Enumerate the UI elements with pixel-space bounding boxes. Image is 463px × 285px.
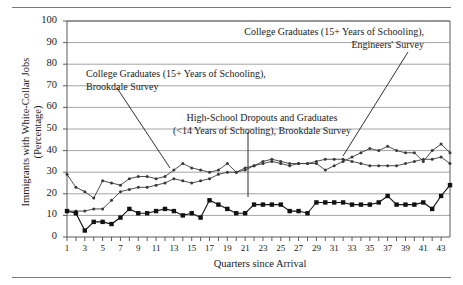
- series-marker: [270, 160, 273, 163]
- series-marker: [83, 190, 86, 193]
- series-line: [67, 144, 450, 198]
- annotation-brookdale-college-grads: College Graduates (15+ Years of Schoolin…: [86, 68, 336, 93]
- series-marker: [315, 160, 318, 163]
- series-marker: [100, 220, 104, 224]
- series-marker: [252, 202, 256, 206]
- series-marker: [92, 220, 96, 224]
- series-marker: [350, 202, 354, 206]
- series-marker: [181, 213, 185, 217]
- series-marker: [155, 184, 158, 187]
- series-marker: [431, 158, 434, 161]
- series-marker: [368, 202, 372, 206]
- series-marker: [65, 209, 69, 213]
- series-marker: [207, 198, 211, 202]
- series-marker: [225, 207, 229, 211]
- series-marker: [306, 162, 309, 165]
- series-marker: [324, 158, 327, 161]
- series-marker: [163, 175, 166, 178]
- series-marker: [449, 162, 452, 165]
- series-marker: [296, 209, 300, 213]
- series-marker: [163, 207, 167, 211]
- series-marker: [243, 211, 247, 215]
- series-marker: [440, 156, 443, 159]
- series-marker: [146, 186, 149, 189]
- series-marker: [287, 209, 291, 213]
- series-marker: [439, 194, 443, 198]
- series-marker: [359, 162, 362, 165]
- series-marker: [217, 169, 220, 172]
- series-marker: [110, 182, 113, 185]
- series-marker: [377, 164, 380, 167]
- series-marker: [163, 182, 166, 185]
- series-marker: [386, 164, 389, 167]
- series-marker: [333, 164, 336, 167]
- series-marker: [146, 175, 149, 178]
- series-marker: [92, 197, 95, 200]
- series-marker: [351, 160, 354, 163]
- series-marker: [128, 188, 131, 191]
- series-marker: [66, 173, 69, 176]
- series-marker: [279, 162, 282, 165]
- series-marker: [368, 164, 371, 167]
- series-marker: [440, 143, 443, 146]
- series-marker: [341, 200, 345, 204]
- series-marker: [137, 186, 140, 189]
- series-marker: [74, 211, 78, 215]
- series-marker: [136, 211, 140, 215]
- series-marker: [323, 200, 327, 204]
- series-marker: [385, 194, 389, 198]
- series-marker: [83, 210, 86, 213]
- series-marker: [216, 202, 220, 206]
- series-marker: [305, 211, 309, 215]
- series-marker: [395, 164, 398, 167]
- series-marker: [172, 177, 175, 180]
- series-marker: [359, 151, 362, 154]
- annotation-engineers-college-grads: College Graduates (15+ Years of Schoolin…: [186, 26, 424, 51]
- series-marker: [101, 207, 104, 210]
- series-marker: [190, 182, 193, 185]
- series-marker: [74, 186, 77, 189]
- series-marker: [199, 169, 202, 172]
- series-marker: [208, 171, 211, 174]
- series-marker: [297, 162, 300, 165]
- series-marker: [270, 202, 274, 206]
- series-marker: [101, 179, 104, 182]
- series-line: [67, 185, 450, 230]
- series-marker: [235, 171, 238, 174]
- series-marker: [413, 160, 416, 163]
- figure-container: Immigrants with White-Collar Jobs (Perce…: [0, 0, 463, 285]
- series-marker: [190, 166, 193, 169]
- series-marker: [449, 151, 452, 154]
- series-marker: [377, 200, 381, 204]
- annotation-brookdale-highschool: High-School Dropouts and Graduates (<14 …: [151, 112, 373, 137]
- series-marker: [394, 202, 398, 206]
- series-marker: [199, 179, 202, 182]
- series-marker: [261, 202, 265, 206]
- series-marker: [92, 207, 95, 210]
- series-marker: [181, 179, 184, 182]
- series-marker: [128, 177, 131, 180]
- series-marker: [324, 169, 327, 172]
- series-marker: [226, 171, 229, 174]
- series-marker: [430, 207, 434, 211]
- series-marker: [421, 200, 425, 204]
- y-ticks: [63, 21, 67, 237]
- series-marker: [119, 184, 122, 187]
- series-marker: [403, 202, 407, 206]
- series-marker: [404, 162, 407, 165]
- series-marker: [127, 207, 131, 211]
- series-marker: [314, 200, 318, 204]
- series-marker: [208, 177, 211, 180]
- series-marker: [412, 202, 416, 206]
- series-marker: [279, 202, 283, 206]
- series-marker: [234, 211, 238, 215]
- series-marker: [359, 202, 363, 206]
- series-marker: [217, 173, 220, 176]
- series-marker: [413, 151, 416, 154]
- series-marker: [431, 149, 434, 152]
- series-marker: [172, 209, 176, 213]
- series-marker: [253, 164, 256, 167]
- data-series: [65, 183, 452, 233]
- data-series: [66, 156, 452, 213]
- series-marker: [377, 149, 380, 152]
